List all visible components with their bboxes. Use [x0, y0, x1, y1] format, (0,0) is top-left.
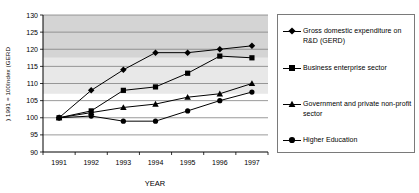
chart-figure-root: 9095100105110115120125130 19911992199319… — [0, 0, 419, 193]
legend-label-government: Government and private non-profit sector — [301, 99, 413, 118]
data-point-marker — [217, 98, 222, 103]
legend-label-gerd: Gross domestic expenditure on R&D (GERD) — [301, 26, 413, 45]
data-point-marker — [185, 108, 190, 113]
y-tick-label: 125 — [26, 29, 38, 36]
x-tick-label: 1994 — [148, 159, 164, 166]
y-tick-labels: 9095100105110115120125130 — [26, 12, 38, 156]
y-tick-label: 130 — [26, 12, 38, 19]
x-tick-label: 1991 — [51, 159, 67, 166]
data-point-marker — [249, 89, 254, 94]
y-tick-label: 95 — [30, 131, 38, 138]
y-tick-label: 105 — [26, 97, 38, 104]
y-tick-label: 90 — [30, 149, 38, 156]
y-tick-label: 120 — [26, 46, 38, 53]
x-tick-label: 1992 — [83, 159, 99, 166]
x-tick-label: 1993 — [116, 159, 132, 166]
x-tick-label: 1995 — [180, 159, 196, 166]
data-point-marker — [185, 71, 190, 76]
data-point-marker — [153, 84, 158, 89]
x-tick-label: 1997 — [244, 159, 260, 166]
y-tick-label: 110 — [27, 80, 38, 87]
y-axis-title: ) 1991 = 100Index (GERD — [1, 18, 15, 150]
x-tick-label: 1996 — [212, 159, 228, 166]
data-point-marker — [121, 88, 126, 93]
legend-item-higher-education[interactable]: Higher Education — [283, 135, 413, 145]
x-tick-labels: 1991199219931994199519961997 — [51, 159, 260, 166]
data-point-marker — [121, 119, 126, 124]
data-point-marker — [217, 54, 222, 59]
line-chart-figure: 9095100105110115120125130 19911992199319… — [0, 0, 419, 193]
chart-legend: Gross domestic expenditure on R&D (GERD)… — [277, 14, 415, 153]
legend-item-gerd[interactable]: Gross domestic expenditure on R&D (GERD) — [283, 26, 413, 45]
triangle-marker-icon — [283, 100, 301, 109]
circle-marker-icon — [283, 136, 301, 145]
square-marker-icon — [283, 64, 301, 73]
x-axis-title: YEAR — [145, 179, 166, 188]
data-point-marker — [56, 115, 61, 120]
legend-label-business: Business enterprise sector — [301, 63, 387, 73]
y-tick-label: 100 — [26, 114, 38, 121]
legend-item-government[interactable]: Government and private non-profit sector — [283, 99, 413, 118]
data-point-marker — [153, 119, 158, 124]
data-point-marker — [249, 55, 254, 60]
legend-item-business[interactable]: Business enterprise sector — [283, 63, 413, 73]
diamond-marker-icon — [283, 27, 301, 36]
y-axis-title-wrap: ) 1991 = 100Index (GERD — [1, 18, 15, 150]
data-point-marker — [89, 113, 94, 118]
legend-label-higher-education: Higher Education — [301, 135, 358, 145]
y-tick-label: 115 — [27, 63, 38, 70]
